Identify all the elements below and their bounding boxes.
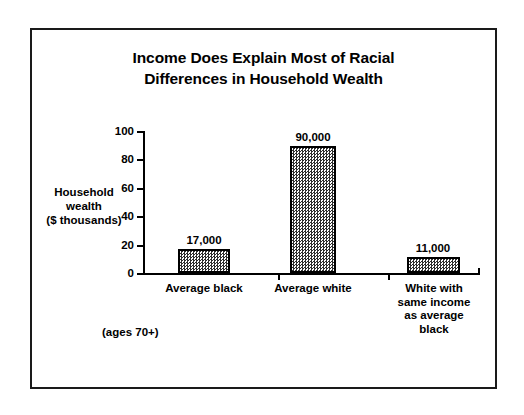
bar-average-white[interactable]: [290, 146, 336, 273]
bar-value-average-white: 90,000: [277, 131, 349, 143]
y-tick-0: [137, 273, 145, 275]
x-tick-sep-1: [278, 273, 280, 280]
bar-average-black[interactable]: [178, 249, 230, 273]
x-tick-sep-2: [388, 273, 390, 280]
y-tick-label-0: 0: [94, 268, 134, 279]
category-label-average-black-line-1: Average black: [158, 282, 250, 296]
y-tick-100: [137, 131, 145, 133]
y-axis-title-line-2: wealth: [34, 199, 134, 213]
chart-frame: Income Does Explain Most of Racial Diffe…: [30, 28, 497, 389]
x-axis-end-tick: [478, 268, 480, 275]
category-label-white-same-income-line-1: White with: [388, 282, 480, 296]
category-label-average-white-line-1: Average white: [267, 282, 359, 296]
y-tick-label-20: 20: [94, 240, 134, 251]
bar-value-white-same-income: 11,000: [397, 242, 469, 254]
y-axis-title-line-3: ($ thousands): [34, 213, 134, 227]
bar-value-average-black: 17,000: [168, 234, 240, 246]
y-tick-label-100: 100: [94, 126, 134, 137]
category-label-white-same-income-line-4: black: [388, 323, 480, 337]
y-tick-40: [137, 216, 145, 218]
category-label-average-white: Average white: [267, 282, 359, 296]
y-tick-60: [137, 188, 145, 190]
y-axis-title-line-1: Household: [34, 185, 134, 199]
category-label-average-black: Average black: [158, 282, 250, 296]
y-tick-80: [137, 159, 145, 161]
y-axis-title: Household wealth ($ thousands): [34, 185, 134, 227]
y-tick-20: [137, 245, 145, 247]
y-tick-label-80: 80: [94, 154, 134, 165]
category-label-white-same-income-line-2: same income: [388, 296, 480, 310]
plot-area: 100 80 60 40 20 0 Household wealth ($ th…: [32, 30, 495, 387]
bar-white-same-income[interactable]: [407, 257, 460, 273]
chart-footnote: (ages 70+): [102, 326, 159, 338]
category-label-white-same-income-line-3: as average: [388, 309, 480, 323]
y-axis-line: [143, 131, 145, 275]
x-axis-line: [143, 273, 480, 275]
category-label-white-same-income: White with same income as average black: [388, 282, 480, 336]
